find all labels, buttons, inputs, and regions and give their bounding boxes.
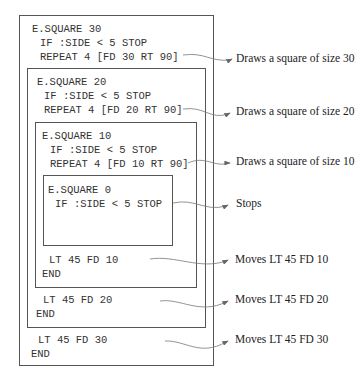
annotation-move-30: Moves LT 45 FD 30 [235, 333, 328, 345]
arrow-draw-10 [188, 160, 230, 164]
arrow-move-10 [150, 258, 228, 264]
arrow-draw-30 [183, 54, 232, 60]
annotation-move-20: Moves LT 45 FD 20 [235, 293, 328, 305]
arrow-move-30 [165, 341, 228, 348]
arrow-draw-20 [183, 109, 230, 116]
annotation-stops: Stops [236, 197, 262, 209]
annotation-draw-30: Draws a square of size 30 [236, 52, 354, 64]
arrow-stops [173, 202, 228, 208]
annotation-move-10: Moves LT 45 FD 10 [235, 253, 328, 265]
annotation-draw-20: Draws a square of size 20 [236, 105, 354, 117]
annotation-draw-10: Draws a square of size 10 [236, 155, 354, 167]
arrow-move-20 [160, 301, 228, 307]
